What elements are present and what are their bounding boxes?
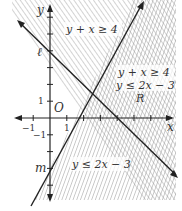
region-lower-label: y ≤ 2x − 3 (71, 158, 131, 171)
region-r-line2: y ≤ 2x − 3 (115, 79, 175, 92)
region-r-name: R (135, 92, 144, 105)
region-r-line1: y + x ≥ 4 (117, 66, 170, 79)
origin-label: O (54, 101, 64, 115)
y-tick-label-neg-one: −1 (33, 130, 46, 140)
x-axis-label: x (167, 120, 174, 134)
line-l-label: ℓ (37, 45, 42, 59)
region-upper-left-label: y + x ≥ 4 (65, 23, 118, 36)
y-axis-label: y (36, 3, 44, 17)
y-tick-label-one: 1 (38, 96, 44, 106)
line-m-label: m (35, 161, 46, 175)
x-tick-label-one: 1 (64, 123, 70, 133)
inequality-graph: y x O −1 1 1 −1 ℓ m y + x ≥ 4 y + x ≥ 4 … (0, 0, 182, 211)
